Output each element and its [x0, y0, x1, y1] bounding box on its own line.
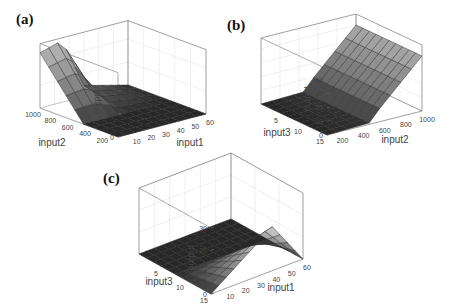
y-tick-label: 600 — [62, 124, 74, 131]
y-tick-label: 1000 — [25, 111, 41, 118]
panel-b: 010203040output200400600800100051015inpu… — [261, 14, 435, 145]
x-tick-label: 30 — [257, 282, 265, 289]
x-axis-label: input1 — [267, 282, 295, 293]
x-tick-label: 60 — [206, 119, 214, 126]
x-tick-label: 30 — [162, 131, 170, 138]
z-tick-label: 20 — [106, 88, 114, 95]
x-tick-label: 400 — [358, 132, 370, 139]
y-tick-label: 200 — [96, 137, 108, 144]
z-tick-label: 10 — [106, 111, 114, 118]
z-tick-label: 10 — [199, 269, 207, 276]
z-axis-label: output — [92, 89, 102, 115]
y-axis-label: input3 — [145, 276, 173, 287]
x-tick-label: 20 — [147, 134, 155, 141]
x-tick-label: 10 — [226, 293, 234, 300]
y-tick-label: 15 — [200, 297, 208, 304]
panel-label-c: (c) — [103, 170, 120, 187]
z-tick-label: 30 — [315, 90, 323, 97]
z-tick-label: 0 — [110, 134, 114, 141]
z-tick-label: 20 — [315, 104, 323, 111]
x-tick-label: 800 — [400, 121, 412, 128]
z-tick-label: 10 — [315, 118, 323, 125]
x-tick-label: 200 — [337, 137, 349, 144]
z-axis-label: output — [302, 86, 312, 112]
x-tick-label: 20 — [242, 287, 250, 294]
z-tick-label: 20 — [199, 247, 207, 254]
panel-label-a: (a) — [16, 11, 34, 28]
x-tick-label: 600 — [379, 127, 391, 134]
y-axis-label: input2 — [38, 137, 66, 148]
x-axis-label: input1 — [176, 137, 204, 148]
y-axis-label: input3 — [263, 127, 291, 138]
y-tick-label: 10 — [294, 128, 302, 135]
x-tick-label: 1000 — [419, 116, 435, 123]
y-tick-label: 10 — [176, 284, 184, 291]
x-tick-label: 60 — [303, 264, 311, 271]
x-axis-label: input2 — [381, 134, 409, 145]
panel-label-b: (b) — [227, 17, 245, 34]
y-tick-label: 5 — [274, 117, 278, 124]
panel-c: 0102030output10203040506051015input1inpu… — [139, 153, 311, 304]
x-tick-label: 10 — [133, 138, 141, 145]
figure: 01020output1020304050602004006008001000i… — [0, 0, 454, 308]
x-tick-label: 40 — [177, 127, 185, 134]
y-tick-label: 15 — [316, 138, 324, 145]
z-axis-label: output — [186, 245, 196, 271]
x-tick-label: 50 — [191, 123, 199, 130]
y-tick-label: 800 — [44, 117, 56, 124]
z-tick-label: 30 — [199, 225, 207, 232]
x-tick-label: 50 — [288, 270, 296, 277]
z-tick-label: 40 — [315, 77, 323, 84]
y-tick-label: 400 — [79, 130, 91, 137]
surface-plot-a: 01020output1020304050602004006008001000i… — [0, 0, 454, 308]
panel-a: 01020output1020304050602004006008001000i… — [25, 21, 214, 148]
